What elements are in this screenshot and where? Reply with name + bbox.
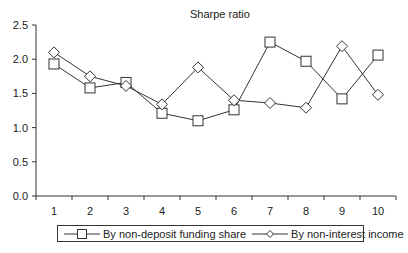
diamond-marker [373, 89, 384, 100]
series-line [54, 42, 378, 121]
y-tick-label: 2.5 [13, 19, 28, 31]
diamond-marker [265, 97, 276, 108]
legend-item-non-deposit: By non-deposit funding share [58, 228, 246, 240]
series-line [54, 46, 378, 108]
square-marker [301, 56, 311, 66]
chart-title: Sharpe ratio [190, 8, 250, 20]
x-tick-label: 8 [303, 205, 309, 217]
diamond-marker-icon [252, 229, 288, 239]
y-tick-label: 1.0 [13, 122, 28, 134]
y-tick-label: 0.0 [13, 190, 28, 202]
diamond-marker [85, 71, 96, 82]
x-tick-label: 6 [231, 205, 237, 217]
y-tick-label: 2.0 [13, 53, 28, 65]
chart-series [49, 37, 384, 126]
legend-item-non-interest: By non-interest income [246, 228, 404, 240]
square-marker [265, 37, 275, 47]
y-tick-label: 0.5 [13, 156, 28, 168]
x-tick-label: 3 [123, 205, 129, 217]
square-marker [337, 94, 347, 104]
y-tick-label: 1.5 [13, 87, 28, 99]
square-marker [85, 83, 95, 93]
diamond-marker [49, 47, 60, 58]
x-tick-label: 2 [87, 205, 93, 217]
x-tick-label: 7 [267, 205, 273, 217]
x-tick-label: 4 [159, 205, 165, 217]
diamond-marker [337, 41, 348, 52]
line-chart: 0.00.51.01.52.02.512345678910 [0, 0, 408, 253]
legend-label: By non-deposit funding share [103, 228, 246, 240]
legend-label: By non-interest income [291, 228, 404, 240]
square-marker [373, 50, 383, 60]
series-diamond [49, 41, 384, 114]
chart-legend: By non-deposit funding share By non-inte… [57, 225, 364, 242]
square-marker [49, 59, 59, 69]
square-marker-icon [64, 229, 100, 239]
series-square [49, 37, 383, 126]
x-tick-label: 9 [339, 205, 345, 217]
x-tick-label: 10 [372, 205, 384, 217]
square-marker [193, 116, 203, 126]
x-tick-label: 1 [51, 205, 57, 217]
x-tick-label: 5 [195, 205, 201, 217]
diamond-marker [301, 102, 312, 113]
